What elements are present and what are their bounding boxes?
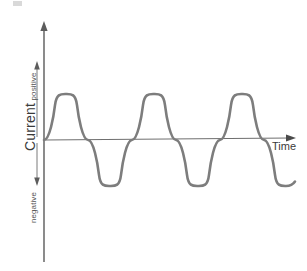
y-axis-positive-label: positive <box>29 57 38 117</box>
y-axis-negative-label: negative <box>29 178 38 238</box>
y-axis <box>40 21 47 262</box>
waveform-plot <box>0 0 307 271</box>
y-axis-arrowhead-icon <box>40 21 47 31</box>
x-axis <box>44 134 296 141</box>
x-axis-title: Time <box>272 140 296 152</box>
figure-canvas: Current positive negative Time <box>0 0 307 271</box>
x-axis-line <box>44 138 291 140</box>
